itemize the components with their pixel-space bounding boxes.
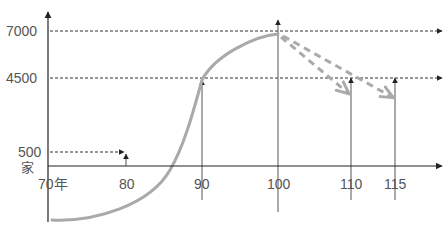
x-label-90: 90 bbox=[194, 176, 210, 192]
actual-curve bbox=[52, 34, 278, 220]
y-label-4500: 4500 bbox=[6, 70, 37, 86]
x-label-70: 70年 bbox=[38, 176, 68, 192]
y-label-500: 500 bbox=[18, 144, 42, 160]
x-label-80: 80 bbox=[119, 176, 135, 192]
x-label-115: 115 bbox=[384, 176, 407, 192]
projection-a bbox=[281, 37, 348, 93]
y-label-7000: 7000 bbox=[6, 23, 37, 39]
chart: 7000 4500 500 家 70年 80 90 100 110 115 bbox=[0, 0, 446, 232]
y-unit-label: 家 bbox=[21, 160, 34, 175]
x-label-110: 110 bbox=[340, 176, 363, 192]
x-label-100: 100 bbox=[267, 176, 291, 192]
projection-b bbox=[283, 36, 392, 97]
